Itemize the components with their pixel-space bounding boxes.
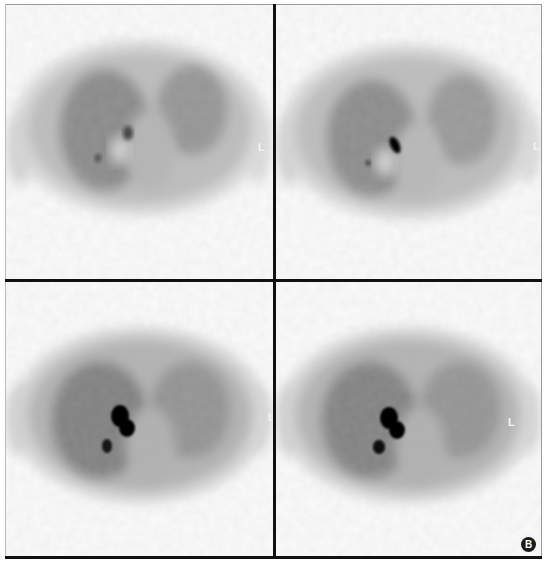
- lesion: [102, 439, 112, 453]
- pet-slice-top-right: L: [276, 5, 541, 279]
- lesion: [123, 126, 133, 140]
- lesion: [365, 160, 371, 166]
- lesion: [119, 419, 135, 437]
- panel-divider-horizontal: [5, 279, 542, 282]
- pet-slice-top-left: L: [6, 5, 273, 279]
- orientation-marker-left: L: [508, 417, 515, 428]
- lesion: [389, 421, 405, 439]
- orientation-marker-left: L: [258, 142, 265, 153]
- pet-slice-image: [276, 5, 541, 279]
- pet-slice-image: [276, 282, 541, 556]
- pet-slice-image: [6, 282, 273, 556]
- lesion: [95, 154, 101, 162]
- pet-scan-figure: L L: [0, 0, 547, 563]
- panel-label-badge: B: [521, 537, 536, 552]
- lesion: [373, 440, 385, 454]
- pet-slice-image: [6, 5, 273, 279]
- orientation-marker-left: L: [533, 141, 540, 152]
- pet-slice-bottom-left: L: [6, 282, 273, 556]
- pet-slice-bottom-right: L: [276, 282, 541, 556]
